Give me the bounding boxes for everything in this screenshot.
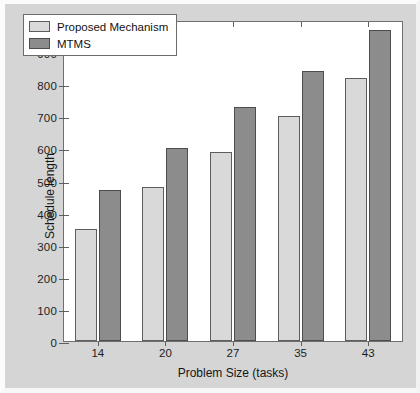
bar: [278, 116, 300, 341]
legend-swatch: [29, 38, 50, 49]
legend-label: Proposed Mechanism: [57, 21, 168, 33]
y-tick-mark-inner: [64, 343, 69, 344]
y-tick-mark-inner: [64, 311, 69, 312]
bar: [166, 148, 188, 341]
bar-group: [199, 22, 267, 341]
legend-label: MTMS: [57, 38, 91, 50]
y-tick-label: 700: [37, 112, 57, 124]
x-tick-mark-top: [233, 22, 234, 27]
figure-container: 01002003004005006007008009001000 1420273…: [0, 0, 420, 393]
legend-item: Proposed Mechanism: [29, 19, 168, 34]
x-tick-mark-top: [301, 22, 302, 27]
bar: [99, 190, 121, 341]
x-tick-label: 14: [91, 347, 104, 359]
y-tick-mark-inner: [64, 247, 69, 248]
bar: [210, 152, 232, 341]
x-tick-label: 35: [294, 347, 307, 359]
plot-axes-area: 01002003004005006007008009001000 1420273…: [63, 21, 403, 342]
x-tick-mark-top: [368, 22, 369, 27]
x-tick-label: 43: [362, 347, 375, 359]
bar-group: [267, 22, 335, 341]
y-tick-label: 100: [37, 305, 57, 317]
chart-legend: Proposed MechanismMTMS: [23, 14, 177, 56]
y-axis-title: Schedule length: [43, 153, 57, 239]
y-tick-label: 800: [37, 80, 57, 92]
y-tick-label: 0: [50, 337, 57, 349]
x-tick-label: 27: [227, 347, 240, 359]
bar-group: [334, 22, 402, 341]
bar: [234, 107, 256, 341]
x-tick-mark: [165, 341, 166, 346]
x-axis-title: Problem Size (tasks): [63, 366, 403, 380]
y-tick-mark-inner: [64, 279, 69, 280]
x-tick-mark: [301, 341, 302, 346]
y-tick-label: 200: [37, 273, 57, 285]
y-tick-mark-inner: [64, 215, 69, 216]
bar-group: [132, 22, 200, 341]
x-tick-mark: [368, 341, 369, 346]
bars-layer: [64, 22, 402, 341]
bar: [142, 187, 164, 341]
y-tick-label: 300: [37, 241, 57, 253]
x-tick-label: 20: [159, 347, 172, 359]
y-tick-mark-inner: [64, 86, 69, 87]
bar: [302, 71, 324, 341]
y-tick-mark-inner: [64, 118, 69, 119]
y-tick-mark-inner: [64, 183, 69, 184]
legend-swatch: [29, 21, 50, 32]
legend-item: MTMS: [29, 36, 168, 51]
bar-group: [64, 22, 132, 341]
bar: [369, 30, 391, 341]
x-tick-mark: [98, 341, 99, 346]
bar: [75, 229, 97, 341]
bar: [345, 78, 367, 341]
y-tick-mark-inner: [64, 150, 69, 151]
x-tick-mark: [233, 341, 234, 346]
